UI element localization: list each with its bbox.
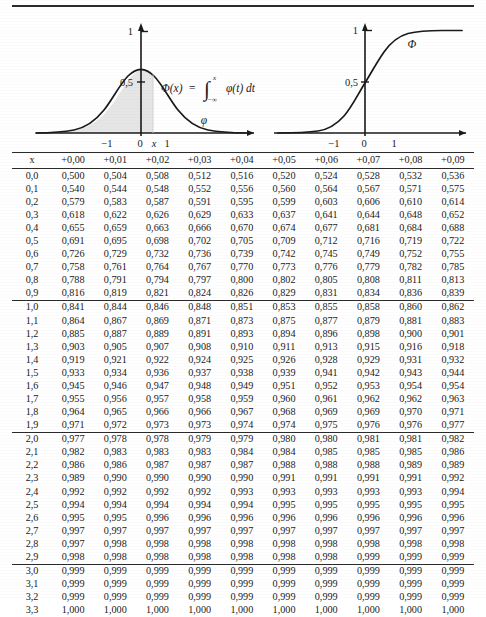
table-row: 0,30,6180,6220,6260,6290,6330,6370,6410,…: [12, 208, 474, 221]
table-cell: 0,907: [136, 340, 178, 353]
table-cell: 0,961: [305, 393, 347, 406]
table-cell: 0,965: [94, 406, 136, 419]
table-cell: 0,881: [390, 314, 432, 327]
density-ytick-label-05: 0,5: [120, 77, 133, 88]
column-header-x: x: [12, 153, 52, 169]
table-cell: 0,966: [179, 406, 221, 419]
row-header-x: 2,0: [12, 432, 52, 446]
table-cell: 0,889: [136, 327, 178, 340]
cdf-ytick-label-05: 0,5: [345, 77, 358, 88]
column-header-5: +0,05: [263, 153, 305, 169]
table-cell: 0,767: [179, 261, 221, 274]
table-cell: 0,936: [136, 366, 178, 379]
table-cell: 0,709: [263, 235, 305, 248]
row-header-x: 1,7: [12, 393, 52, 406]
table-cell: 0,875: [263, 314, 305, 327]
table-cell: 0,871: [179, 314, 221, 327]
table-cell: 0,933: [52, 366, 94, 379]
table-block: 0,00,5000,5040,5080,5120,5160,5200,5240,…: [12, 169, 474, 301]
table-cell: 0,571: [390, 182, 432, 195]
table-cell: 0,764: [136, 261, 178, 274]
table-cell: 0,712: [305, 235, 347, 248]
table-row: 2,40,9920,9920,9920,9920,9930,9930,9930,…: [12, 485, 474, 498]
table-cell: 0,722: [432, 235, 474, 248]
table-cell: 0,629: [179, 208, 221, 221]
table-cell: 0,752: [390, 248, 432, 261]
table-cell: 0,821: [136, 287, 178, 301]
table-cell: 0,908: [179, 340, 221, 353]
table-cell: 0,999: [221, 564, 263, 578]
table-cell: 0,918: [432, 340, 474, 353]
table-cell: 0,988: [347, 459, 389, 472]
table-cell: 0,556: [221, 182, 263, 195]
table-cell: 0,579: [52, 195, 94, 208]
table-cell: 0,983: [94, 446, 136, 459]
table-cell: 0,742: [263, 248, 305, 261]
table-cell: 0,916: [390, 340, 432, 353]
table-cell: 0,560: [263, 182, 305, 195]
table-cell: 0,824: [179, 287, 221, 301]
table-row: 0,40,6550,6590,6630,6660,6700,6740,6770,…: [12, 222, 474, 235]
table-cell: 0,947: [136, 379, 178, 392]
table-cell: 0,860: [390, 300, 432, 314]
table-row: 2,30,9890,9900,9900,9900,9900,9910,9910,…: [12, 472, 474, 485]
row-header-x: 1,3: [12, 340, 52, 353]
table-cell: 0,949: [221, 379, 263, 392]
table-cell: 0,998: [94, 537, 136, 550]
table-cell: 0,990: [94, 472, 136, 485]
column-header-4: +0,04: [221, 153, 263, 169]
table-cell: 0,944: [432, 366, 474, 379]
table-cell: 0,997: [390, 524, 432, 537]
table-row: 0,80,7880,7910,7940,7970,8000,8020,8050,…: [12, 274, 474, 287]
table-cell: 0,745: [305, 248, 347, 261]
row-header-x: 1,5: [12, 366, 52, 379]
table-cell: 0,999: [347, 564, 389, 578]
table-row: 1,50,9330,9340,9360,9370,9380,9390,9410,…: [12, 366, 474, 379]
table-cell: 0,520: [263, 169, 305, 183]
table-row: 2,80,9970,9980,9980,9980,9980,9980,9980,…: [12, 537, 474, 550]
table-cell: 0,997: [432, 524, 474, 537]
table-cell: 0,937: [179, 366, 221, 379]
table-cell: 0,987: [179, 459, 221, 472]
table-cell: 0,836: [390, 287, 432, 301]
table-cell: 0,939: [263, 366, 305, 379]
table-cell: 0,958: [179, 393, 221, 406]
row-header-x: 0,3: [12, 208, 52, 221]
table-cell: 0,986: [432, 446, 474, 459]
table-cell: 0,998: [305, 537, 347, 550]
row-header-x: 2,7: [12, 524, 52, 537]
table-cell: 0,883: [432, 314, 474, 327]
table-cell: 0,993: [221, 485, 263, 498]
table-cell: 0,719: [390, 235, 432, 248]
table-cell: 0,978: [136, 432, 178, 446]
table-cell: 0,591: [179, 195, 221, 208]
table-cell: 0,948: [179, 379, 221, 392]
table-cell: 0,603: [305, 195, 347, 208]
table-cell: 0,998: [221, 537, 263, 550]
table-cell: 0,994: [179, 498, 221, 511]
table-cell: 0,606: [347, 195, 389, 208]
table-cell: 0,954: [432, 379, 474, 392]
table-cell: 0,987: [136, 459, 178, 472]
table-cell: 0,982: [432, 432, 474, 446]
table-cell: 0,641: [305, 208, 347, 221]
row-header-x: 2,9: [12, 550, 52, 564]
table-row: 2,20,9860,9860,9870,9870,9870,9880,9880,…: [12, 459, 474, 472]
table-row: 0,60,7260,7290,7320,7360,7390,7420,7450,…: [12, 248, 474, 261]
table-cell: 0,973: [136, 419, 178, 433]
table-cell: 0,996: [221, 511, 263, 524]
table-cell: 0,998: [179, 550, 221, 564]
table-cell: 0,969: [305, 406, 347, 419]
table-cell: 0,516: [221, 169, 263, 183]
table-cell: 0,969: [347, 406, 389, 419]
table-cell: 0,998: [347, 537, 389, 550]
table-cell: 0,981: [347, 432, 389, 446]
table-cell: 0,998: [136, 537, 178, 550]
table-cell: 0,978: [94, 432, 136, 446]
formula-lhs: Φ(x): [161, 82, 183, 95]
table-cell: 1,000: [179, 604, 221, 617]
table-cell: 0,945: [52, 379, 94, 392]
table-cell: 0,622: [94, 208, 136, 221]
table-cell: 0,996: [390, 511, 432, 524]
table-cell: 0,999: [179, 564, 221, 578]
